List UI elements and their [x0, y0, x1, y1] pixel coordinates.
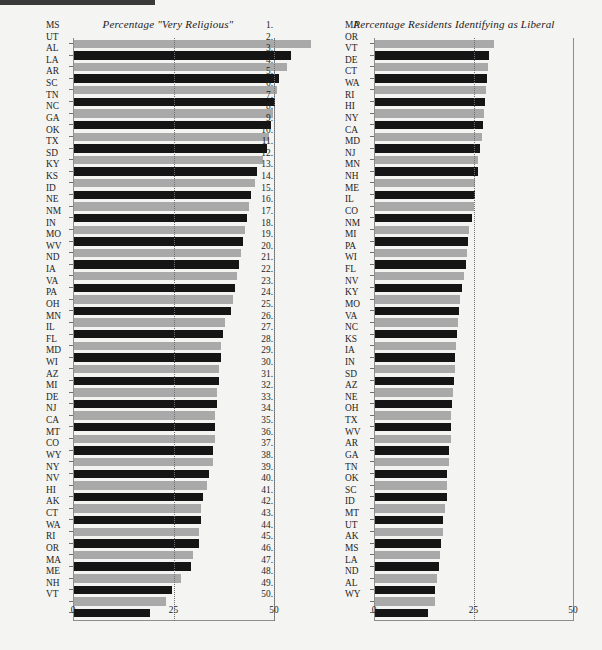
bar — [375, 214, 472, 222]
rank-number: 43. — [261, 508, 273, 520]
bar — [375, 365, 455, 373]
bar — [74, 318, 225, 326]
bar — [375, 237, 468, 245]
bar — [375, 156, 478, 164]
bar — [375, 493, 447, 501]
state-abbreviation: PA — [345, 241, 356, 253]
x-axis-labels-right: 02550 — [374, 603, 573, 617]
rank-number: 13. — [261, 159, 273, 171]
state-abbreviation: MD — [345, 136, 360, 148]
bar — [74, 365, 219, 373]
state-abbreviation: IL — [46, 322, 55, 334]
bar — [74, 400, 217, 408]
rank-number: 16. — [261, 194, 273, 206]
x-axis-tick-label: 25 — [469, 605, 478, 615]
state-abbreviation: MN — [345, 159, 360, 171]
state-abbreviation: NV — [345, 276, 359, 288]
figure-page: Percentage "Very Religious" 1.MS2.UT3.AL… — [0, 0, 602, 650]
bar — [375, 411, 451, 419]
state-abbreviation: AK — [345, 531, 359, 543]
bar — [375, 109, 484, 117]
bar — [375, 272, 464, 280]
state-abbreviation: MS — [345, 543, 359, 555]
state-abbreviation: NH — [46, 578, 60, 590]
bar — [74, 342, 221, 350]
axis-line-right — [573, 38, 574, 621]
state-abbreviation: NE — [46, 194, 59, 206]
state-abbreviation: AK — [46, 496, 60, 508]
state-abbreviation: HI — [345, 101, 355, 113]
state-abbreviation: WA — [345, 78, 360, 90]
bar — [74, 470, 209, 478]
bar — [375, 539, 441, 547]
state-abbreviation: NY — [345, 113, 359, 125]
bar — [375, 121, 483, 129]
rank-number: 15. — [261, 183, 273, 195]
rank-number: 38. — [261, 450, 273, 462]
rank-number: 27. — [261, 322, 273, 334]
state-abbreviation: HI — [46, 485, 56, 497]
bar — [375, 133, 482, 141]
bar — [74, 51, 291, 59]
state-abbreviation: MA — [46, 555, 61, 567]
rank-number: 14. — [261, 171, 273, 183]
state-abbreviation: IA — [345, 345, 355, 357]
state-abbreviation: SD — [345, 369, 357, 381]
state-abbreviation: KY — [46, 159, 60, 171]
bar — [74, 411, 215, 419]
rank-number: 41. — [261, 485, 273, 497]
bar — [375, 446, 449, 454]
bar — [375, 51, 489, 59]
bar — [375, 342, 456, 350]
rank-number: 33. — [261, 392, 273, 404]
bar — [74, 481, 207, 489]
bar — [375, 284, 462, 292]
state-abbreviation: OH — [345, 403, 359, 415]
bar — [375, 330, 457, 338]
bar — [74, 353, 221, 361]
bar — [74, 156, 263, 164]
rank-number: 28. — [261, 334, 273, 346]
bar — [375, 226, 469, 234]
state-abbreviation: IN — [345, 357, 355, 369]
state-abbreviation: WV — [345, 427, 361, 439]
rank-number: 9. — [266, 113, 273, 125]
rank-number: 17. — [261, 206, 273, 218]
state-abbreviation: NM — [345, 218, 360, 230]
state-abbreviation: VA — [46, 276, 58, 288]
state-abbreviation: MT — [345, 508, 359, 520]
bar — [375, 353, 455, 361]
x-axis-labels-left: 02550 — [73, 603, 274, 617]
bar — [375, 528, 443, 536]
rank-number: 30. — [261, 357, 273, 369]
bar — [74, 249, 241, 257]
state-abbreviation: NM — [46, 206, 61, 218]
state-abbreviation: LA — [345, 555, 358, 567]
state-abbreviation: AR — [345, 438, 358, 450]
bar — [375, 388, 453, 396]
state-abbreviation: MO — [345, 299, 360, 311]
bar — [375, 516, 443, 524]
state-abbreviation: MS — [46, 20, 60, 32]
state-abbreviation: OH — [46, 299, 60, 311]
state-abbreviation: CT — [46, 508, 58, 520]
rank-number: 44. — [261, 520, 273, 532]
state-abbreviation: VA — [345, 311, 357, 323]
bar — [74, 226, 245, 234]
state-abbreviation: WA — [46, 520, 61, 532]
state-abbreviation: UT — [46, 32, 59, 44]
bar — [375, 260, 466, 268]
rank-number: 45. — [261, 531, 273, 543]
state-abbreviation: CA — [345, 125, 358, 137]
rank-number: 37. — [261, 438, 273, 450]
rank-number: 10. — [261, 125, 273, 137]
page-header-band — [0, 0, 155, 5]
state-abbreviation: WI — [46, 357, 58, 369]
rank-number: 48. — [261, 566, 273, 578]
bar — [375, 551, 440, 559]
bar — [375, 179, 475, 187]
state-abbreviation: TN — [46, 90, 59, 102]
rank-number: 1. — [266, 20, 273, 32]
state-abbreviation: NH — [345, 171, 359, 183]
state-abbreviation: AL — [46, 43, 59, 55]
